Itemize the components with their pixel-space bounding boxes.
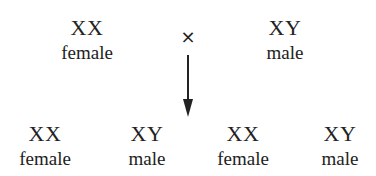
parent-genotype: XY	[240, 17, 330, 39]
offspring-4: XY male	[295, 123, 376, 168]
offspring-sex-label: male	[295, 149, 376, 168]
offspring-genotype: XX	[0, 123, 90, 145]
offspring-1: XX female	[0, 123, 90, 168]
parent-female: XX female	[42, 17, 132, 62]
offspring-2: XY male	[102, 123, 192, 168]
offspring-genotype: XX	[198, 123, 288, 145]
offspring-sex-label: female	[0, 149, 90, 168]
parent-sex-label: female	[42, 43, 132, 62]
down-arrow-icon	[180, 55, 196, 117]
parent-sex-label: male	[240, 43, 330, 62]
offspring-genotype: XY	[102, 123, 192, 145]
offspring-sex-label: male	[102, 149, 192, 168]
parent-male: XY male	[240, 17, 330, 62]
offspring-genotype: XY	[295, 123, 376, 145]
cross-symbol: ×	[180, 28, 196, 46]
offspring-sex-label: female	[198, 149, 288, 168]
parent-genotype: XX	[42, 17, 132, 39]
offspring-3: XX female	[198, 123, 288, 168]
